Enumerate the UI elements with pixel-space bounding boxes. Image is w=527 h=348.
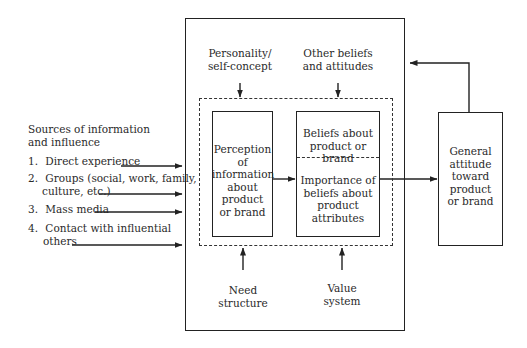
sources-title-line: and influence <box>28 136 188 149</box>
value-line: Value <box>307 282 377 295</box>
importance-label: Importance of beliefs about product attr… <box>296 174 380 224</box>
need-line: structure <box>208 297 278 310</box>
source-label-cont: culture, etc.) <box>42 185 111 197</box>
attitude-line: General <box>438 145 503 158</box>
source-item-3: 3. Mass media <box>28 203 109 216</box>
importance-line: beliefs about <box>296 187 380 200</box>
importance-line: product <box>296 199 380 212</box>
source-label: Mass media <box>45 203 109 215</box>
perception-line: information <box>212 168 273 181</box>
other-beliefs-label: Other beliefs and attitudes <box>298 47 378 72</box>
source-number: 2. <box>28 172 42 185</box>
importance-line: attributes <box>296 212 380 225</box>
other-beliefs-line: Other beliefs <box>298 47 378 60</box>
attitude-line: toward <box>438 170 503 183</box>
attitude-line: attitude <box>438 158 503 171</box>
source-item-4-cont: others <box>43 235 77 248</box>
source-item-4: 4. Contact with influential <box>28 222 171 235</box>
source-item-1: 1. Direct experience <box>28 155 140 168</box>
attitude-line: product <box>438 183 503 196</box>
source-item-2: 2. Groups (social, work, family, <box>28 172 197 185</box>
value-line: system <box>307 295 377 308</box>
perception-line: of <box>212 156 273 169</box>
source-item-2-cont: culture, etc.) <box>42 185 111 198</box>
value-system-label: Value system <box>307 282 377 307</box>
personality-label: Personality/ self-concept <box>200 47 280 72</box>
beliefs-line: product or brand <box>296 140 380 165</box>
beliefs-upper-label: Beliefs about product or brand <box>296 127 380 165</box>
source-label-cont: others <box>43 235 77 247</box>
perception-line: product <box>212 193 273 206</box>
source-label: Contact with influential <box>45 222 171 234</box>
general-attitude-label: General attitude toward product or brand <box>438 145 503 208</box>
perception-label: Perception of information about product … <box>212 143 273 218</box>
source-number: 1. <box>28 155 42 168</box>
source-label: Direct experience <box>45 155 140 167</box>
source-label: Groups (social, work, family, <box>45 172 196 184</box>
attitude-formation-diagram: Perception of information about product … <box>0 0 527 348</box>
perception-line: about <box>212 181 273 194</box>
personality-line: self-concept <box>200 60 280 73</box>
need-line: Need <box>208 284 278 297</box>
beliefs-line: Beliefs about <box>296 127 380 140</box>
other-beliefs-line: and attitudes <box>298 60 378 73</box>
sources-title: Sources of information and influence <box>28 123 188 148</box>
sources-title-line: Sources of information <box>28 123 188 136</box>
source-number: 4. <box>28 222 42 235</box>
need-structure-label: Need structure <box>208 284 278 309</box>
source-number: 3. <box>28 203 42 216</box>
importance-line: Importance of <box>296 174 380 187</box>
attitude-line: or brand <box>438 195 503 208</box>
perception-line: Perception <box>212 143 273 156</box>
perception-line: or brand <box>212 206 273 219</box>
personality-line: Personality/ <box>200 47 280 60</box>
